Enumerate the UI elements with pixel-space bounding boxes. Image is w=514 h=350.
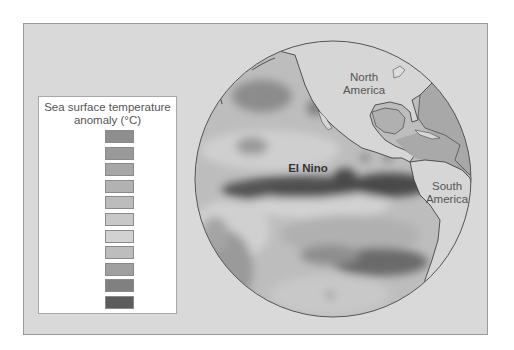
legend-swatch xyxy=(105,163,134,176)
legend-row: 0 xyxy=(39,196,176,212)
south-america-label-line2: America xyxy=(422,193,472,206)
north-america-label-line1: North xyxy=(334,71,394,84)
legend-row: −3° xyxy=(39,147,176,163)
legend-row: +3° xyxy=(39,246,176,262)
north-america-label-line2: America xyxy=(334,84,394,97)
legend-row: +6° xyxy=(39,296,176,312)
legend-row: +1° xyxy=(39,213,176,229)
legend-row: +4° xyxy=(39,263,176,279)
legend-swatch xyxy=(105,180,134,193)
legend-title-line1: Sea surface temperature xyxy=(39,101,176,114)
legend-title: Sea surface temperature anomaly (°C) xyxy=(39,101,176,127)
legend-row: −2° xyxy=(39,163,176,179)
legend-swatch xyxy=(105,147,134,160)
south-america-label: South America xyxy=(422,180,472,206)
south-america-label-line1: South xyxy=(422,180,472,193)
legend-swatch xyxy=(105,263,134,276)
legend-title-line2: anomaly (°C) xyxy=(39,114,176,127)
legend-swatch xyxy=(105,130,134,143)
el-nino-label: El Nino xyxy=(278,162,338,175)
legend-row: +5° xyxy=(39,279,176,295)
legend-swatch xyxy=(105,213,134,226)
legend-box: Sea surface temperature anomaly (°C) −4°… xyxy=(38,96,177,314)
legend-row: −4° xyxy=(39,130,176,146)
north-america-label: North America xyxy=(334,71,394,97)
legend-row: −1° xyxy=(39,180,176,196)
legend-swatch xyxy=(105,279,134,292)
legend-swatch xyxy=(105,246,134,259)
legend-swatch xyxy=(105,230,134,243)
legend-row: +2° xyxy=(39,230,176,246)
legend-swatch xyxy=(105,296,134,309)
legend-swatch xyxy=(105,196,134,209)
